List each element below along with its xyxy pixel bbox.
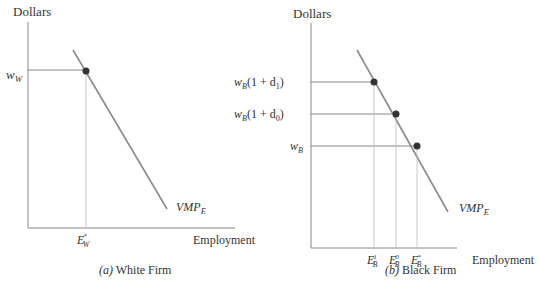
y-axis-label: Dollars — [293, 6, 331, 21]
vmp-label: VMPE — [176, 200, 207, 216]
equilibrium-point — [83, 68, 90, 75]
wage-label-wb: wB — [290, 139, 303, 155]
vmp-label: VMPE — [459, 201, 490, 217]
discrimination-diagram: Dollars wW VMPE E*W Employment (a) White… — [0, 0, 538, 284]
employment-label-white: E*W — [76, 232, 91, 249]
vmp-curve — [357, 50, 448, 212]
wage-label-d1: wB(1 + d1) — [234, 75, 284, 91]
point-wb — [414, 143, 421, 150]
panel-black-firm: Dollars wB(1 + d1) wB(1 + d0) wB VMPE E1… — [234, 6, 535, 277]
panel-white-firm: Dollars wW VMPE E*W Employment (a) White… — [6, 4, 256, 277]
point-d1 — [371, 79, 378, 86]
wage-label-d0: wB(1 + d0) — [234, 107, 284, 123]
caption-black-firm: (b) Black Firm — [385, 263, 457, 277]
point-d0 — [393, 111, 400, 118]
x-axis-label: Employment — [472, 253, 535, 267]
caption-white-firm: (a) White Firm — [99, 263, 172, 277]
wage-label-white: wW — [6, 67, 24, 84]
y-axis-label: Dollars — [13, 4, 51, 19]
x-axis-label: Employment — [193, 233, 256, 247]
employment-label-e1: E1B — [366, 253, 378, 269]
